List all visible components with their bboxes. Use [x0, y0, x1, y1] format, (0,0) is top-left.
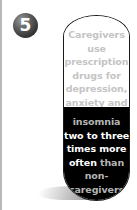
text-muted: non- — [85, 170, 109, 181]
fact-pill: Caregivers use prescription drugs for de… — [63, 15, 130, 201]
text-line: caregivers — [64, 183, 129, 197]
text-line: non- — [64, 169, 129, 183]
text-muted: insomnia — [73, 116, 121, 127]
step-number-badge: 5 — [13, 13, 38, 38]
text-line: use — [64, 42, 129, 56]
step-number: 5 — [20, 15, 32, 35]
text-muted: than — [97, 157, 124, 168]
text-line: two to three — [64, 129, 129, 143]
pill-top-section: Caregivers use prescription drugs for de… — [64, 16, 129, 107]
pill-top-text: Caregivers use prescription drugs for de… — [64, 28, 129, 109]
text-highlight: times more — [67, 143, 127, 154]
text-line: insomnia — [64, 115, 129, 129]
pill-bottom-text: insomnia two to three times more often t… — [64, 115, 129, 196]
text-line: times more — [64, 142, 129, 156]
text-line: depression, — [64, 82, 129, 96]
left-divider — [0, 0, 2, 210]
text-line: prescription — [64, 55, 129, 69]
text-highlight: two to three — [64, 130, 129, 141]
text-line: often than — [64, 156, 129, 170]
text-line: Caregivers — [64, 28, 129, 42]
text-line: drugs for — [64, 69, 129, 83]
pill-bottom-section: insomnia two to three times more often t… — [64, 107, 129, 200]
text-highlight: often — [69, 157, 97, 168]
text-muted: caregivers — [69, 184, 124, 195]
